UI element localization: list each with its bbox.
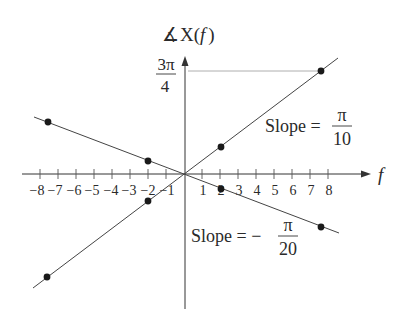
- annotation-slope-neg-pi-20: Slope = − π 20: [191, 215, 298, 259]
- svg-text:5: 5: [272, 183, 279, 198]
- svg-text:20: 20: [279, 239, 297, 259]
- data-point: [145, 198, 152, 205]
- y-marker-label-3pi-over-4: 3π 4: [156, 55, 176, 96]
- phase-spectrum-figure: −8 −7 −6 −5 −4 −3 −2 −1 1 2 3 4 5 6 7 8 …: [0, 0, 403, 325]
- x-axis-label: f: [378, 164, 386, 185]
- svg-text:6: 6: [290, 183, 297, 198]
- x-axis-tick-labels: −8 −7 −6 −5 −4 −3 −2 −1 1 2 3 4 5 6 7 8: [30, 183, 333, 198]
- data-point: [44, 274, 51, 281]
- svg-text:π: π: [337, 105, 346, 125]
- svg-text:−4: −4: [104, 183, 119, 198]
- data-point: [218, 186, 225, 193]
- svg-text:1: 1: [200, 183, 207, 198]
- y-axis-label: ∡X(f): [162, 24, 215, 46]
- svg-text:8: 8: [326, 183, 333, 198]
- data-point: [318, 224, 325, 231]
- svg-text:7: 7: [308, 183, 315, 198]
- angle-icon: ∡: [162, 24, 179, 45]
- svg-text:4: 4: [254, 183, 261, 198]
- svg-text:−7: −7: [48, 183, 63, 198]
- svg-text:10: 10: [333, 129, 351, 149]
- svg-text:−8: −8: [30, 183, 45, 198]
- x-axis-arrow-icon: [361, 171, 371, 178]
- x-axis: −8 −7 −6 −5 −4 −3 −2 −1 1 2 3 4 5 6 7 8 …: [22, 164, 386, 198]
- svg-text:−5: −5: [85, 183, 100, 198]
- svg-text:4: 4: [161, 77, 170, 96]
- annotation-slope-pi-10: Slope = π 10: [265, 105, 352, 149]
- svg-text:−2: −2: [141, 183, 156, 198]
- svg-text:Slope =: Slope =: [265, 116, 321, 136]
- svg-text:−3: −3: [122, 183, 137, 198]
- svg-text:Slope = −: Slope = −: [191, 226, 261, 246]
- svg-text:−6: −6: [67, 183, 82, 198]
- data-point: [145, 158, 152, 165]
- data-point: [45, 119, 52, 126]
- data-point: [218, 144, 225, 151]
- y-axis-arrow-icon: [182, 56, 189, 66]
- data-point: [318, 68, 325, 75]
- svg-text:π: π: [283, 215, 292, 235]
- svg-text:3π: 3π: [157, 55, 175, 74]
